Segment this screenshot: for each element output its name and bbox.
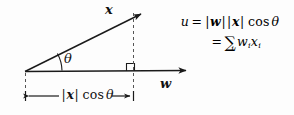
formula-w-component: w [235, 34, 248, 49]
angle-theta-label: θ [64, 52, 72, 65]
vector-x-arrow [25, 14, 141, 72]
formula-line-2: =∑iwixi [168, 33, 292, 53]
formula-vector-x: x [232, 14, 240, 29]
angle-arc [57, 54, 62, 71]
formula-x-subscript: i [258, 41, 261, 50]
vector-projection-figure: x w θ |x|cosθ u=|w||x|cosθ =∑iwixi [0, 0, 294, 115]
formula-cos: cos [245, 14, 270, 29]
formula-equals-2: = [209, 34, 225, 49]
cos-operator: cos [80, 87, 105, 102]
formula-vector-w: w [210, 14, 221, 29]
projection-vector-x: x [66, 87, 74, 102]
vector-w-arrow [25, 71, 186, 72]
formula-equals-1: = [189, 14, 205, 29]
formula-block: u=|w||x|cosθ =∑iwixi [168, 14, 292, 53]
formula-lhs-u: u [181, 14, 189, 29]
vector-w-label: w [160, 77, 171, 90]
theta-symbol: θ [104, 87, 114, 102]
norm-bar-close: | [74, 87, 79, 102]
formula-theta: θ [270, 14, 280, 29]
formula-line-1: u=|w||x|cosθ [168, 14, 292, 29]
projection-length-label: |x|cosθ [61, 89, 114, 102]
vector-x-label: x [105, 3, 113, 16]
